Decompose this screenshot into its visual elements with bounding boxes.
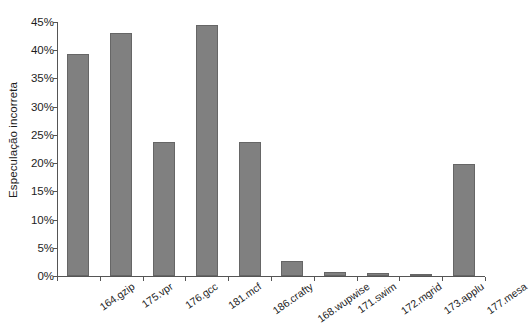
bar[interactable] xyxy=(196,25,218,276)
bar[interactable] xyxy=(67,54,89,276)
x-axis-tick-label: 177.mesa xyxy=(484,280,529,316)
bar[interactable] xyxy=(410,274,432,276)
bar[interactable] xyxy=(367,273,389,276)
y-axis-tick-label: 25% xyxy=(31,129,54,141)
bar[interactable] xyxy=(110,33,132,276)
y-axis-tick-label: 5% xyxy=(37,242,54,254)
x-axis-tick-label: 164.gzip xyxy=(98,280,137,313)
x-axis-tick-label: 175.vpr xyxy=(140,280,176,310)
x-axis-tickmark xyxy=(485,277,486,281)
y-axis-title-label: Especulação incorreta xyxy=(7,82,19,198)
bar[interactable] xyxy=(453,164,475,276)
x-axis-tick-label: 176.gcc xyxy=(183,280,220,311)
bar[interactable] xyxy=(324,272,346,276)
y-axis-tick-label: 0% xyxy=(37,270,54,282)
x-axis-tick-label: 181.mcf xyxy=(226,280,263,311)
plot-area xyxy=(57,22,485,276)
bar[interactable] xyxy=(239,142,261,276)
x-axis-tick-labels: 164.gzip175.vpr176.gcc181.mcf186.crafty1… xyxy=(57,278,485,336)
y-axis-tick-label: 10% xyxy=(31,214,54,226)
y-axis-tick-label: 15% xyxy=(31,185,54,197)
x-axis-tick-label: 186.crafty xyxy=(270,280,315,316)
y-axis-tick-label: 35% xyxy=(31,72,54,84)
x-axis-tick-label: 173.applu xyxy=(441,280,486,316)
bar[interactable] xyxy=(153,142,175,276)
y-axis-tick-label: 30% xyxy=(31,101,54,113)
bars-layer xyxy=(57,22,485,276)
y-axis-tick-label: 45% xyxy=(31,16,54,28)
y-axis-tick-label: 40% xyxy=(31,44,54,56)
y-axis-tick-labels: 0%5%10%15%20%25%30%35%40%45% xyxy=(20,14,54,282)
bar[interactable] xyxy=(281,261,303,276)
y-axis-tick-label: 20% xyxy=(31,157,54,169)
x-axis-tick-label: 172.mgrid xyxy=(398,280,443,317)
